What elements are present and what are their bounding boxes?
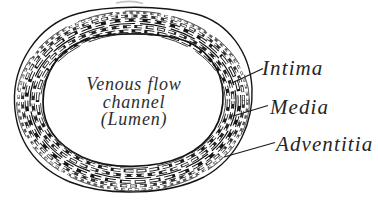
label-intima: Intima — [262, 58, 323, 79]
label-media: Media — [270, 97, 329, 118]
label-adventitia: Adventitia — [276, 134, 373, 155]
lumen-caption: Venous flow channel (Lumen) — [58, 76, 210, 129]
top-smudge-mark — [116, 1, 143, 3]
lumen-caption-line1: Venous flow — [58, 76, 210, 94]
lumen-caption-line3: (Lumen) — [58, 111, 210, 129]
vein-cross-section-diagram: Venous flow channel (Lumen) Intima Media… — [0, 0, 378, 202]
adventitia-leader-line — [224, 143, 275, 158]
